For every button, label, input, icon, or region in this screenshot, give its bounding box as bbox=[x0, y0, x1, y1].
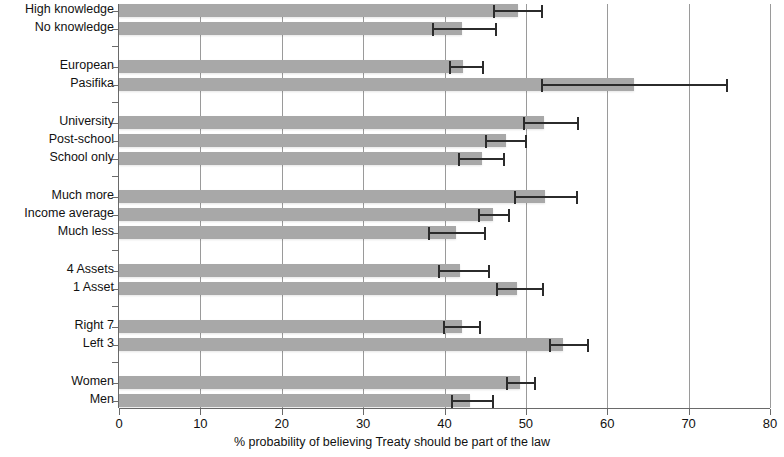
x-tick-label-80: 80 bbox=[763, 416, 777, 431]
bar bbox=[119, 282, 517, 295]
y-tick bbox=[112, 11, 119, 12]
bar bbox=[119, 394, 470, 407]
category-label: European bbox=[60, 59, 114, 72]
category-label: Left 3 bbox=[83, 337, 114, 350]
category-label: Income average bbox=[24, 207, 114, 220]
x-tick-30 bbox=[363, 409, 364, 415]
x-tick-label-60: 60 bbox=[600, 416, 614, 431]
bar bbox=[119, 22, 462, 35]
error-bar bbox=[428, 232, 486, 234]
error-bar bbox=[496, 288, 544, 290]
error-bar bbox=[549, 344, 589, 346]
bar bbox=[119, 264, 460, 277]
error-cap-lower bbox=[549, 339, 551, 352]
category-label: Much less bbox=[58, 225, 114, 238]
error-cap-lower bbox=[443, 321, 445, 334]
x-tick-70 bbox=[689, 409, 690, 415]
error-bar bbox=[449, 66, 483, 68]
gridline-80 bbox=[770, 4, 771, 408]
x-tick-10 bbox=[200, 409, 201, 415]
error-bar bbox=[451, 400, 494, 402]
y-tick bbox=[112, 141, 119, 142]
y-tick-group-separator bbox=[112, 362, 119, 363]
y-tick bbox=[112, 197, 119, 198]
error-cap-lower bbox=[451, 395, 453, 408]
error-cap-upper bbox=[484, 227, 486, 240]
category-label: 4 Assets bbox=[67, 263, 114, 276]
error-cap-upper bbox=[534, 377, 536, 390]
error-cap-upper bbox=[577, 117, 579, 130]
bar bbox=[119, 320, 462, 333]
gridline-70 bbox=[689, 4, 690, 408]
bar bbox=[119, 134, 506, 147]
y-tick bbox=[112, 85, 119, 86]
error-cap-upper bbox=[541, 5, 543, 18]
error-cap-lower bbox=[496, 283, 498, 296]
category-label: 1 Asset bbox=[73, 281, 114, 294]
bar bbox=[119, 116, 544, 129]
y-tick-group-separator bbox=[112, 176, 119, 177]
error-cap-lower bbox=[478, 209, 480, 222]
category-label: High knowledge bbox=[25, 3, 114, 16]
error-bar bbox=[478, 214, 510, 216]
error-bar bbox=[432, 28, 497, 30]
error-cap-upper bbox=[508, 209, 510, 222]
x-tick-label-30: 30 bbox=[356, 416, 370, 431]
y-tick-group-separator bbox=[112, 46, 119, 47]
x-tick-label-40: 40 bbox=[437, 416, 451, 431]
y-tick bbox=[112, 159, 119, 160]
category-label: Right 7 bbox=[74, 319, 114, 332]
bar bbox=[119, 60, 463, 73]
bar bbox=[119, 152, 482, 165]
x-axis-title: % probability of believing Treaty should… bbox=[0, 435, 784, 449]
bar bbox=[119, 4, 518, 17]
category-axis-labels: High knowledgeNo knowledgeEuropeanPasifi… bbox=[0, 0, 114, 410]
bar bbox=[119, 338, 563, 351]
bar bbox=[119, 208, 493, 221]
x-tick-label-70: 70 bbox=[681, 416, 695, 431]
error-cap-lower bbox=[541, 79, 543, 92]
category-label: No knowledge bbox=[35, 21, 114, 34]
error-cap-lower bbox=[458, 153, 460, 166]
error-cap-upper bbox=[482, 61, 484, 74]
y-tick-group-separator bbox=[112, 250, 119, 251]
x-tick-label-20: 20 bbox=[275, 416, 289, 431]
error-bar bbox=[485, 140, 527, 142]
error-cap-upper bbox=[587, 339, 589, 352]
error-cap-upper bbox=[576, 191, 578, 204]
error-bar bbox=[493, 10, 543, 12]
error-cap-upper bbox=[488, 265, 490, 278]
horizontal-bar-chart: High knowledgeNo knowledgeEuropeanPasifi… bbox=[0, 0, 784, 457]
error-cap-upper bbox=[503, 153, 505, 166]
x-tick-50 bbox=[526, 409, 527, 415]
y-tick-group-separator bbox=[112, 102, 119, 103]
category-label: Much more bbox=[51, 189, 114, 202]
error-bar bbox=[523, 122, 578, 124]
x-tick-20 bbox=[282, 409, 283, 415]
bar bbox=[119, 226, 456, 239]
x-tick-label-0: 0 bbox=[115, 416, 122, 431]
error-bar bbox=[514, 196, 577, 198]
y-tick bbox=[112, 401, 119, 402]
error-bar bbox=[506, 382, 536, 384]
y-tick bbox=[112, 383, 119, 384]
error-cap-lower bbox=[485, 135, 487, 148]
bar bbox=[119, 190, 545, 203]
error-cap-upper bbox=[492, 395, 494, 408]
bar bbox=[119, 376, 520, 389]
category-label: Post-school bbox=[49, 133, 114, 146]
x-tick-label-50: 50 bbox=[519, 416, 533, 431]
error-cap-lower bbox=[432, 23, 434, 36]
plot-area bbox=[119, 4, 770, 408]
y-tick bbox=[112, 271, 119, 272]
category-label: Men bbox=[90, 393, 114, 406]
x-tick-40 bbox=[445, 409, 446, 415]
error-cap-lower bbox=[449, 61, 451, 74]
error-cap-upper bbox=[479, 321, 481, 334]
y-tick bbox=[112, 67, 119, 68]
error-cap-lower bbox=[438, 265, 440, 278]
error-cap-lower bbox=[493, 5, 495, 18]
error-cap-lower bbox=[514, 191, 516, 204]
error-cap-upper bbox=[542, 283, 544, 296]
y-tick-group-separator bbox=[112, 306, 119, 307]
